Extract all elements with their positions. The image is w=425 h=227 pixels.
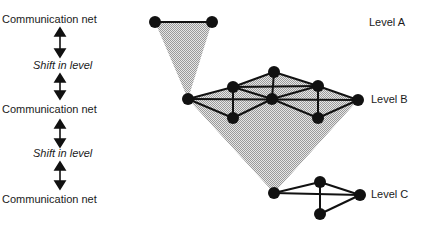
shift-projection-a-to-b bbox=[155, 22, 212, 99]
node bbox=[149, 16, 161, 28]
node bbox=[268, 187, 280, 199]
shift-in-level-label: Shift in level bbox=[33, 147, 92, 159]
node bbox=[266, 93, 278, 105]
node bbox=[182, 93, 194, 105]
level-c-label: Level C bbox=[371, 188, 408, 200]
double-arrow-icon bbox=[55, 162, 65, 189]
communication-net-label: Communication net bbox=[2, 103, 97, 115]
node bbox=[312, 112, 324, 124]
node bbox=[354, 189, 366, 201]
communication-net-label: Communication net bbox=[2, 13, 97, 25]
double-arrow-icon bbox=[55, 120, 65, 147]
node bbox=[268, 66, 280, 78]
node bbox=[227, 81, 239, 93]
node bbox=[227, 112, 239, 124]
level-b-label: Level B bbox=[371, 93, 408, 105]
node bbox=[314, 208, 326, 220]
node bbox=[206, 16, 218, 28]
level-a-label: Level A bbox=[369, 16, 405, 28]
communication-net-label: Communication net bbox=[2, 193, 97, 205]
shift-in-level-label: Shift in level bbox=[33, 59, 92, 71]
shift-projection-b-to-c bbox=[188, 99, 358, 193]
node bbox=[352, 94, 364, 106]
double-arrow-icon bbox=[55, 28, 65, 57]
node bbox=[314, 176, 326, 188]
node bbox=[312, 80, 324, 92]
double-arrow-icon bbox=[55, 74, 65, 99]
